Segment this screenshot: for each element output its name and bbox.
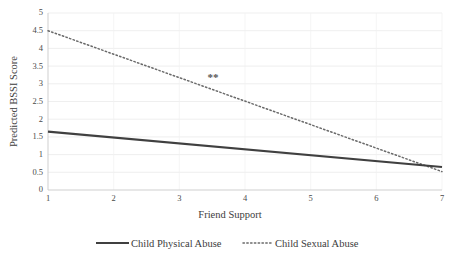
- y-tick-label: 3: [39, 78, 43, 88]
- x-tick-label: 3: [177, 193, 181, 203]
- y-tick-label: 5: [39, 7, 43, 17]
- y-tick-label: 0.5: [32, 167, 43, 177]
- y-tick-label: 3.5: [32, 61, 43, 71]
- y-tick-label: 0: [39, 184, 43, 194]
- y-tick-label: 4.5: [32, 25, 43, 35]
- predicted-bssi-score-line-chart: 0 0.5 1 1.5 2 2.5 3 3.5 4 4.5 5 1 2 3 4 …: [0, 0, 460, 262]
- x-tick-label: 7: [440, 193, 444, 203]
- chart-background: [0, 0, 460, 262]
- x-tick-label: 6: [374, 193, 378, 203]
- legend-label-child-sexual-abuse: Child Sexual Abuse: [275, 238, 359, 249]
- y-axis-title: Predicted BSSI Score: [8, 56, 19, 147]
- x-axis-title: Friend Support: [198, 209, 261, 220]
- x-tick-label: 5: [309, 193, 313, 203]
- y-tick-label: 2: [39, 114, 43, 124]
- significance-annotation: **: [208, 71, 220, 83]
- x-tick-label: 1: [46, 193, 50, 203]
- chart-figure: 0 0.5 1 1.5 2 2.5 3 3.5 4 4.5 5 1 2 3 4 …: [0, 0, 460, 262]
- y-tick-label: 1.5: [32, 131, 43, 141]
- y-tick-label: 2.5: [32, 96, 43, 106]
- y-tick-label: 1: [39, 149, 43, 159]
- legend-label-child-physical-abuse: Child Physical Abuse: [131, 238, 222, 249]
- x-tick-label: 2: [112, 193, 116, 203]
